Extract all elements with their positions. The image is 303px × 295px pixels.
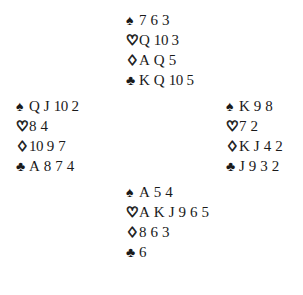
card-rank: 7 [139,10,147,30]
card-list-north-hearts: Q103 [139,32,180,48]
card-rank: 2 [251,116,259,136]
card-rank: 9 [179,202,187,222]
hand-north: ♠763♡Q103♢AQ5♣KQ105 [126,10,194,90]
card-list-east-clubs: J932 [239,158,280,174]
card-rank: J [239,156,245,176]
card-rank: Q [154,50,165,70]
card-rank: 4 [41,116,49,136]
card-rank: 9 [47,136,55,156]
card-rank: A [139,50,150,70]
card-list-south-diamonds: 863 [139,224,170,240]
card-rank: 6 [151,222,159,242]
card-rank: 10 [154,30,168,50]
card-rank: 5 [202,202,210,222]
hand-south: ♠A54♡AKJ965♢863♣6 [126,182,210,262]
card-rank: 8 [139,222,147,242]
card-rank: K [139,70,150,90]
card-rank: A [29,156,40,176]
card-rank: 10 [54,96,68,116]
card-rank: 5 [169,50,177,70]
suit-row-east-diamonds: ♢KJ42 [226,136,283,156]
card-rank: 8 [44,156,52,176]
card-rank: 4 [264,136,272,156]
card-list-north-diamonds: AQ5 [139,52,177,68]
card-rank: 6 [139,242,147,262]
card-rank: 7 [58,136,66,156]
card-rank: K [239,96,250,116]
suit-row-south-diamonds: ♢863 [126,222,210,242]
card-rank: 9 [249,156,257,176]
club-pip-icon: ♣ [126,71,139,91]
suit-row-west-spades: ♠QJ102 [16,96,79,116]
card-rank: 7 [239,116,247,136]
card-list-south-clubs: 6 [139,244,147,260]
card-rank: Q [154,70,165,90]
card-rank: K [154,202,165,222]
card-rank: 6 [190,202,198,222]
diamond-pip-icon: ♢ [126,51,139,71]
club-pip-icon: ♣ [126,243,139,263]
card-rank: 3 [162,10,170,30]
suit-row-north-spades: ♠763 [126,10,194,30]
suit-row-east-clubs: ♣J932 [226,156,283,176]
suit-row-north-hearts: ♡Q103 [126,30,194,50]
card-rank: 8 [29,116,37,136]
suit-row-south-hearts: ♡AKJ965 [126,202,210,222]
card-rank: Q [29,96,40,116]
card-rank: 3 [162,222,170,242]
suit-row-east-spades: ♠K98 [226,96,283,116]
club-pip-icon: ♣ [16,157,29,177]
diamond-pip-icon: ♢ [226,137,239,157]
card-rank: 10 [29,136,43,156]
card-rank: J [254,136,260,156]
card-rank: 5 [186,70,194,90]
bridge-hand-diagram: ♠763♡Q103♢AQ5♣KQ105 ♠QJ102♡84♢1097♣A874 … [0,0,303,295]
card-rank: 3 [260,156,268,176]
card-rank: 5 [154,182,162,202]
diamond-pip-icon: ♢ [16,137,29,157]
suit-row-north-diamonds: ♢AQ5 [126,50,194,70]
diamond-pip-icon: ♢ [126,223,139,243]
card-list-east-spades: K98 [239,98,273,114]
card-rank: A [139,202,150,222]
card-rank: 6 [151,10,159,30]
card-rank: 10 [169,70,183,90]
card-rank: J [44,96,50,116]
card-rank: 2 [272,156,280,176]
spade-pip-icon: ♠ [126,11,139,31]
suit-row-west-diamonds: ♢1097 [16,136,79,156]
card-rank: A [139,182,150,202]
card-rank: 4 [67,156,75,176]
heart-pip-icon: ♡ [16,117,29,137]
spade-pip-icon: ♠ [16,97,29,117]
card-rank: 7 [55,156,63,176]
spade-pip-icon: ♠ [126,183,139,203]
card-list-east-diamonds: KJ42 [239,138,283,154]
card-rank: Q [139,30,150,50]
suit-row-west-clubs: ♣A874 [16,156,79,176]
card-list-south-spades: A54 [139,184,173,200]
card-rank: K [239,136,250,156]
spade-pip-icon: ♠ [226,97,239,117]
card-rank: 3 [172,30,180,50]
card-list-west-diamonds: 1097 [29,138,66,154]
card-rank: 2 [71,96,79,116]
hand-west: ♠QJ102♡84♢1097♣A874 [16,96,79,176]
suit-row-north-clubs: ♣KQ105 [126,70,194,90]
card-rank: 8 [265,96,273,116]
suit-row-east-hearts: ♡72 [226,116,283,136]
suit-row-west-hearts: ♡84 [16,116,79,136]
hand-east: ♠K98♡72♢KJ42♣J932 [226,96,283,176]
card-list-north-spades: 763 [139,12,170,28]
card-rank: 2 [275,136,283,156]
card-list-south-hearts: AKJ965 [139,204,210,220]
card-rank: J [169,202,175,222]
suit-row-south-spades: ♠A54 [126,182,210,202]
card-list-east-hearts: 72 [239,118,259,134]
card-list-west-hearts: 84 [29,118,49,134]
card-rank: 9 [254,96,262,116]
heart-pip-icon: ♡ [126,203,139,223]
card-rank: 4 [165,182,173,202]
card-list-north-clubs: KQ105 [139,72,194,88]
heart-pip-icon: ♡ [126,31,139,51]
